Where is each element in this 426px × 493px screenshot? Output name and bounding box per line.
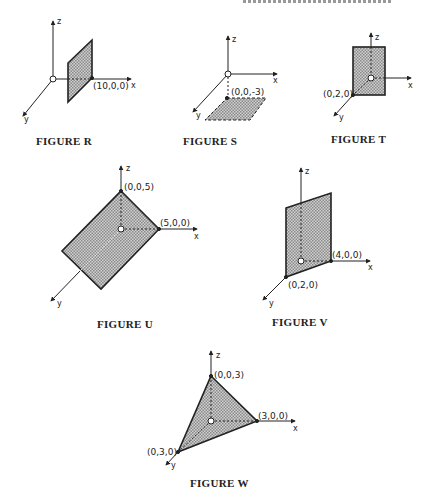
svg-text:x: x	[368, 263, 373, 272]
svg-text:x: x	[131, 81, 136, 90]
svg-text:x: x	[408, 81, 413, 90]
caption-figure-s: FIGURE S	[183, 135, 237, 147]
point-label-r: (10,0,0)	[93, 81, 129, 91]
caption-figure-u: FIGURE U	[97, 318, 153, 330]
svg-text:x: x	[273, 76, 278, 85]
svg-text:y: y	[57, 299, 62, 308]
svg-text:y: y	[339, 113, 344, 122]
figures-canvas: z x y (10,0,0) z x y (0,0,-3) z x y (0,2…	[0, 0, 426, 493]
caption-figure-t: FIGURE T	[331, 133, 386, 145]
point-label-v-y: (0,2,0)	[288, 280, 318, 290]
z-label: z	[57, 17, 61, 26]
svg-text:y: y	[269, 299, 274, 308]
origin-marker	[50, 76, 56, 82]
svg-text:z: z	[126, 164, 130, 173]
svg-text:x: x	[194, 232, 199, 241]
figure-r	[23, 21, 131, 116]
svg-text:z: z	[232, 35, 236, 44]
svg-text:y: y	[171, 461, 176, 470]
point-label-v-x: (4,0,0)	[332, 250, 362, 260]
figure-w	[166, 351, 295, 465]
plane	[353, 47, 385, 95]
figure-s	[193, 36, 277, 120]
figure-t	[334, 33, 411, 116]
plane	[68, 40, 92, 102]
svg-text:z: z	[216, 351, 220, 360]
point-label-t: (0,2,0)	[323, 89, 353, 99]
y-axis	[23, 79, 53, 116]
svg-text:x: x	[293, 424, 298, 433]
svg-text:y: y	[196, 111, 201, 120]
point-label-w-y: (0,3,0)	[147, 447, 177, 457]
caption-figure-w: FIGURE W	[190, 477, 249, 489]
point-label-u-z: (0,0,5)	[124, 182, 154, 192]
svg-text:y: y	[24, 115, 29, 124]
svg-text:z: z	[375, 33, 379, 42]
caption-figure-r: FIGURE R	[36, 135, 92, 147]
point-label-u-x: (5,0,0)	[160, 218, 190, 228]
plane	[286, 193, 331, 277]
point-label-w-z: (0,0,3)	[214, 370, 244, 380]
point-label-w-x: (3,0,0)	[258, 411, 288, 421]
plane	[205, 98, 266, 120]
point-label-s: (0,0,-3)	[231, 87, 264, 97]
caption-figure-v: FIGURE V	[272, 316, 328, 328]
svg-text:z: z	[305, 167, 309, 176]
